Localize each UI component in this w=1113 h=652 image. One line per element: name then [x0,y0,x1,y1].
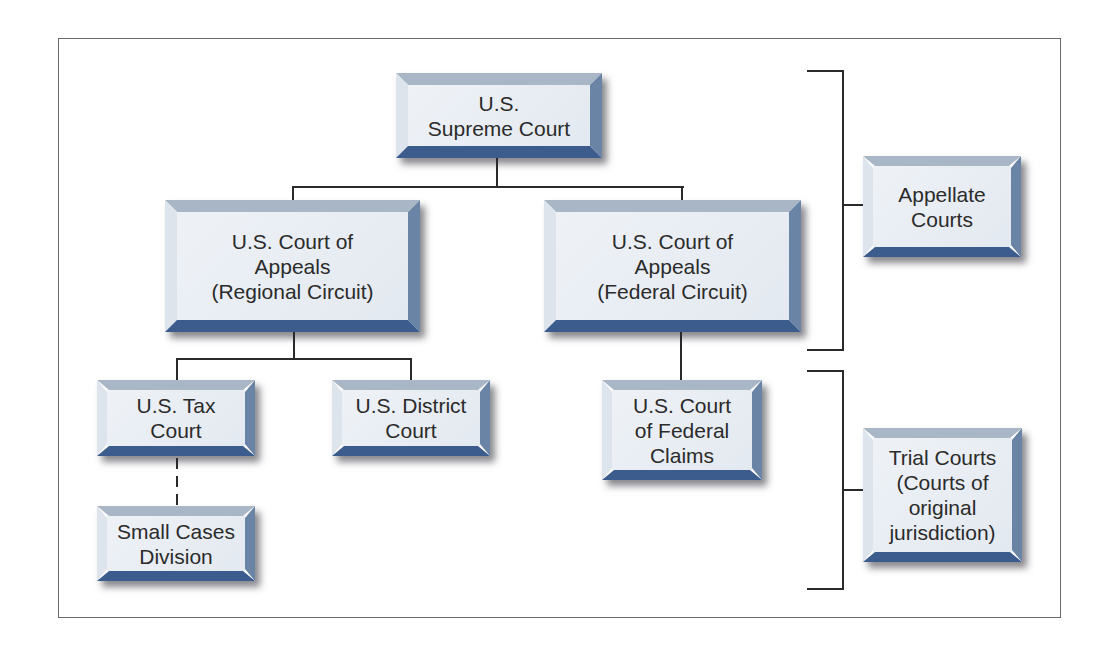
connector-to-federal [681,186,683,201]
node-label: Small Cases Division [117,519,235,569]
node-district-court: U.S. District Court [332,380,490,456]
bracket-appellate-tick [842,204,864,206]
node-appeals-federal-circuit: U.S. Court of Appeals (Federal Circuit) [544,200,801,332]
bracket-appellate-top [807,70,844,72]
connector-regional-down [293,332,295,360]
bracket-trial-tick [842,489,864,491]
node-court-of-federal-claims: U.S. Court of Federal Claims [602,380,762,480]
connector-appeals-horizontal [292,186,684,188]
dashed-connector-tax-to-small-cases [176,458,178,506]
node-label: U.S. Court of Appeals (Federal Circuit) [597,229,748,304]
bracket-trial-top [807,370,844,372]
node-label: U.S. Court of Federal Claims [633,393,731,468]
node-label: U.S. Tax Court [137,393,216,443]
node-appeals-regional-circuit: U.S. Court of Appeals (Regional Circuit) [165,200,420,332]
bracket-appellate-vertical [842,70,844,351]
connector-to-tax [176,358,178,381]
node-small-cases-division: Small Cases Division [97,506,255,581]
node-label: U.S. Court of Appeals (Regional Circuit) [211,229,373,304]
node-tax-court: U.S. Tax Court [97,380,255,456]
bracket-appellate-bottom [807,349,844,351]
category-label: Trial Courts (Courts of original jurisdi… [889,445,997,545]
node-label: U.S. District Court [356,393,467,443]
node-label: U.S. Supreme Court [428,91,570,141]
connector-federal-to-claims [680,332,682,381]
bracket-trial-bottom [807,588,844,590]
category-label: Appellate Courts [898,182,986,232]
connector-to-district [410,358,412,381]
category-appellate-courts: Appellate Courts [863,156,1021,257]
category-trial-courts: Trial Courts (Courts of original jurisdi… [863,428,1022,562]
connector-trial-horizontal [176,358,412,360]
connector-supreme-down [496,157,498,188]
connector-to-regional [292,186,294,201]
node-supreme-court: U.S. Supreme Court [396,73,602,158]
bracket-trial-vertical [842,370,844,590]
